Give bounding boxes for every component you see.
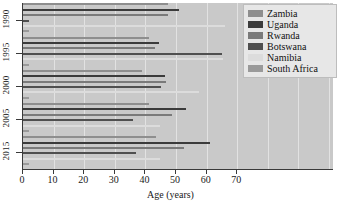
y-axis-tick-label: 2000 — [1, 67, 11, 103]
legend-item[interactable]: Zambia — [248, 8, 333, 19]
bar — [23, 30, 29, 32]
gridline — [207, 3, 208, 169]
legend-item-label: Uganda — [267, 19, 298, 30]
bar — [23, 142, 210, 144]
x-axis-tick-label: 20 — [71, 174, 95, 185]
bar — [23, 14, 168, 16]
legend: ZambiaUgandaRwandaBotswanaNamibiaSouth A… — [243, 4, 337, 78]
legend-item-label: Namibia — [267, 52, 301, 63]
bar — [23, 147, 184, 149]
y-axis-tick-label: 1990 — [1, 1, 11, 37]
gridline — [176, 3, 177, 169]
x-axis-tick-label: 70 — [224, 174, 248, 185]
bar — [23, 70, 142, 72]
y-axis-tick — [16, 152, 22, 153]
x-axis-title: Age (years) — [0, 189, 341, 200]
legend-item-label: South Africa — [267, 63, 318, 74]
bar — [23, 9, 179, 11]
bar — [23, 130, 29, 132]
bar — [23, 136, 156, 138]
legend-item[interactable]: South Africa — [248, 63, 333, 74]
x-axis-tick-label: 50 — [163, 174, 187, 185]
bar — [23, 91, 199, 93]
bar — [23, 163, 29, 165]
bar — [23, 53, 222, 55]
bar — [23, 37, 149, 39]
bar — [23, 42, 159, 44]
bar — [23, 119, 133, 121]
y-axis-tick-label: 2015 — [1, 133, 11, 169]
y-axis-tick — [16, 119, 22, 120]
x-axis-tick-label: 10 — [41, 174, 65, 185]
y-axis-tick-label: 2005 — [1, 100, 11, 136]
bar — [23, 125, 160, 127]
bar — [23, 103, 149, 105]
legend-item[interactable]: Namibia — [248, 52, 333, 63]
legend-swatch — [248, 43, 263, 50]
legend-swatch — [248, 21, 263, 28]
bar — [23, 75, 165, 77]
gridline — [237, 3, 238, 169]
y-axis-tick — [16, 20, 22, 21]
bar — [23, 64, 29, 66]
y-axis-line — [22, 3, 23, 169]
legend-item[interactable]: Botswana — [248, 41, 333, 52]
bar — [23, 158, 160, 160]
x-axis-line — [22, 169, 333, 170]
bar — [23, 20, 29, 22]
bar — [23, 25, 225, 27]
y-axis-tick-label: 1995 — [1, 34, 11, 70]
x-axis-tick-label: 40 — [132, 174, 156, 185]
bar — [23, 47, 155, 49]
x-axis-tick-label: 0 — [10, 174, 34, 185]
y-axis-tick — [16, 86, 22, 87]
legend-swatch — [248, 65, 263, 72]
legend-swatch — [248, 32, 263, 39]
legend-item-label: Zambia — [267, 8, 298, 19]
bar — [23, 86, 161, 88]
bar — [23, 58, 223, 60]
y-axis-tick — [16, 53, 22, 54]
x-axis-tick-label: 30 — [102, 174, 126, 185]
legend-item-label: Botswana — [267, 41, 306, 52]
bar-chart-figure: 19901995200020052015 010203040506070 Age… — [0, 0, 341, 207]
bar — [23, 152, 136, 154]
bar — [23, 108, 186, 110]
bar — [23, 97, 29, 99]
x-axis-tick-label: 60 — [194, 174, 218, 185]
legend-swatch — [248, 54, 263, 61]
legend-item-label: Rwanda — [267, 30, 300, 41]
legend-item[interactable]: Rwanda — [248, 30, 333, 41]
bar — [23, 3, 168, 5]
legend-swatch — [248, 10, 263, 17]
legend-item[interactable]: Uganda — [248, 19, 333, 30]
bar — [23, 81, 166, 83]
bar — [23, 114, 172, 116]
